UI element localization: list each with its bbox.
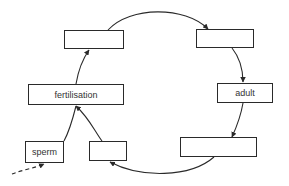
arrow-adult-to-bottom-right <box>232 103 243 137</box>
arrow-sperm-to-fertilisation <box>64 106 76 141</box>
stage-label: fertilisation <box>54 90 97 100</box>
stage-box-adult: adult <box>217 83 273 103</box>
stage-label: sperm <box>32 147 57 157</box>
stage-label: adult <box>235 88 255 98</box>
arrow-top-right-to-adult <box>232 48 243 82</box>
arrow-fertilisation-to-top-left <box>76 50 89 84</box>
stage-box-fertilisation: fertilisation <box>28 84 124 105</box>
arrow-dashed-to-sperm <box>12 164 44 174</box>
stage-box-bottom-right <box>180 137 257 157</box>
stage-box-bottom-middle <box>89 141 127 161</box>
arrow-top-left-to-top-right <box>108 12 208 30</box>
arrow-bottom-middle-to-fertilisation <box>76 106 102 141</box>
life-cycle-diagram: fertilisation adult sperm <box>0 0 289 186</box>
stage-box-sperm: sperm <box>25 141 64 163</box>
stage-box-top-left <box>64 30 124 49</box>
stage-box-top-right <box>196 29 254 48</box>
